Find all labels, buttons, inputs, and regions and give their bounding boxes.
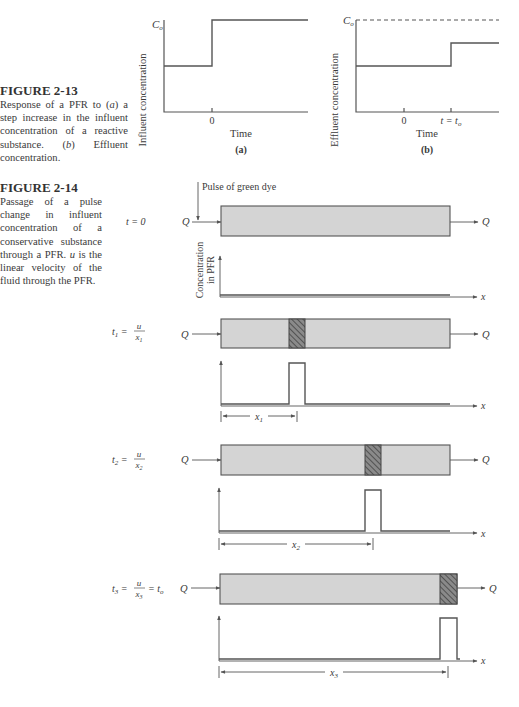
time-label: t3 = xyxy=(112,583,128,596)
x-tick-label: 0 xyxy=(210,115,215,126)
effluent-step-line xyxy=(356,43,499,66)
flow-out-label: Q xyxy=(489,583,497,594)
concentration-pulse-line xyxy=(219,618,460,659)
distance-label: x1 xyxy=(254,411,263,424)
frac-num: u xyxy=(137,321,142,331)
time-label: t2 = xyxy=(112,454,128,467)
y-top-label: Co xyxy=(152,18,163,32)
pfr-row-t1: t1 = u x1 Q Q x x1 xyxy=(112,319,490,424)
panel-label: (a) xyxy=(235,144,247,156)
flow-in-label: Q xyxy=(181,329,189,340)
distance-label: x2 xyxy=(291,539,300,552)
y-top-label: Co xyxy=(343,14,354,28)
pfr-tube xyxy=(221,206,450,236)
pfr-row-t0: t = 0 Q Q Concentration in PFR x xyxy=(126,206,490,302)
chart-panel-a: Influent concentration Co 0 Time (a) xyxy=(137,18,308,156)
pfr-tube xyxy=(220,574,457,604)
pfr-tube xyxy=(221,319,450,348)
x-axis-label: x xyxy=(480,655,486,666)
x-tick-label-t: t = to xyxy=(441,115,462,128)
concentration-pulse-line xyxy=(221,363,450,404)
flow-out-label: Q xyxy=(482,329,490,340)
time-label: t = 0 xyxy=(126,216,146,227)
dye-pulse-band xyxy=(365,445,381,475)
time-eq-to: = to xyxy=(148,583,164,596)
x-tick-label: 0 xyxy=(402,115,407,126)
distance-label: x3 xyxy=(329,667,338,680)
pfr-row-t2: t2 = u x2 Q Q x x2 xyxy=(112,445,490,552)
frac-den: x1 xyxy=(135,332,143,343)
frac-num: u xyxy=(137,578,142,588)
x-axis-label: x xyxy=(480,291,486,302)
panel-label: (b) xyxy=(421,144,433,156)
dye-pulse-band xyxy=(289,319,305,348)
pfr-row-t3: t3 = u x3 = to Q Q x x3 xyxy=(112,574,497,680)
time-label: t1 = xyxy=(112,326,128,339)
frac-den: x2 xyxy=(135,460,143,471)
flow-in-label: Q xyxy=(182,216,190,227)
conc-axis-label-1: Concentration xyxy=(194,242,205,299)
x-axis-label: x xyxy=(480,400,486,411)
y-axis-label: Effluent concentration xyxy=(329,52,340,147)
chart-panel-b: Effluent concentration Co 0 t = to Time … xyxy=(329,14,499,156)
x-axis-label: x xyxy=(480,528,486,539)
dye-pulse-band xyxy=(440,574,457,604)
flow-in-label: Q xyxy=(180,583,188,594)
frac-num: u xyxy=(137,449,142,459)
conc-axis-label-2: in PFR xyxy=(205,256,216,284)
pfr-tube xyxy=(221,445,450,475)
influent-step-line xyxy=(164,20,308,66)
concentration-pulse-line xyxy=(219,490,450,531)
pulse-label: Pulse of green dye xyxy=(202,181,277,192)
figure-canvas: Influent concentration Co 0 Time (a) Eff… xyxy=(0,0,519,707)
x-axis-label: Time xyxy=(230,128,252,139)
frac-den: x3 xyxy=(135,589,143,600)
flow-out-label: Q xyxy=(482,454,490,465)
flow-out-label: Q xyxy=(482,216,490,227)
flow-in-label: Q xyxy=(181,454,189,465)
y-axis-label: Influent concentration xyxy=(137,53,148,147)
x-axis-label: Time xyxy=(416,128,438,139)
